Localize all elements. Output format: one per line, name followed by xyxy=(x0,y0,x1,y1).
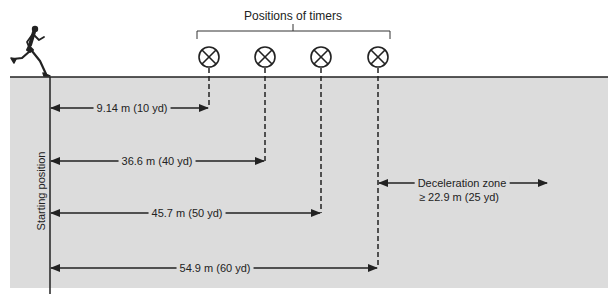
timer-icon-4 xyxy=(368,47,388,67)
timer-icon-2 xyxy=(255,47,275,67)
deceleration-zone-distance: ≥ 22.9 m (25 yd) xyxy=(419,191,499,204)
timers-title: Positions of timers xyxy=(244,10,342,23)
runner-icon xyxy=(11,26,50,76)
timer-icon-3 xyxy=(311,47,331,67)
timer-icon-1 xyxy=(199,47,219,67)
distance-label-50yd: 45.7 m (50 yd) xyxy=(149,207,226,220)
timers-bracket xyxy=(197,24,390,39)
sprint-test-diagram xyxy=(0,0,616,298)
deceleration-zone-label: Deceleration zone xyxy=(415,177,510,190)
starting-position-label: Starting position xyxy=(35,152,48,231)
distance-label-60yd: 54.9 m (60 yd) xyxy=(177,262,254,275)
distance-label-10yd: 9.14 m (10 yd) xyxy=(94,102,171,115)
distance-label-40yd: 36.6 m (40 yd) xyxy=(119,155,196,168)
